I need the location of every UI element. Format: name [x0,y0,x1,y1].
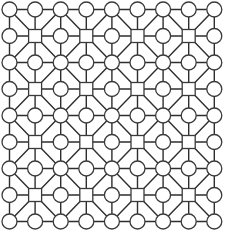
circle-node [53,135,68,150]
square-node [29,136,42,149]
circle-node [2,161,17,176]
square-node [80,30,93,43]
circle-node [130,2,145,17]
circle-node [28,214,43,229]
circle-node [28,55,43,70]
circle-node [130,55,145,70]
square-node [182,83,195,96]
circle-node [207,2,222,17]
circle-node [104,135,119,150]
square-node [131,30,144,43]
circle-node [104,29,119,44]
square-node [80,83,93,96]
circle-node [79,2,94,17]
circle-node [181,108,196,123]
circle-node [156,214,171,229]
circle-node [181,2,196,17]
circle-node [53,82,68,97]
circle-node [207,29,222,44]
circle-node [156,29,171,44]
circle-node [130,108,145,123]
circle-node [181,161,196,176]
circle-node [79,55,94,70]
circle-node [207,214,222,229]
circle-node [181,214,196,229]
square-node [131,136,144,149]
circle-node [156,55,171,70]
circle-node [181,55,196,70]
circle-node [2,2,17,17]
circle-node [104,188,119,203]
nodes-layer [2,2,222,229]
square-node [182,136,195,149]
circle-node [207,82,222,97]
circle-node [28,2,43,17]
circle-node [156,135,171,150]
circle-node [2,82,17,97]
circle-node [79,161,94,176]
circle-node [104,82,119,97]
square-node [182,30,195,43]
circle-node [53,55,68,70]
circle-node [104,161,119,176]
circle-node [2,135,17,150]
circle-node [207,108,222,123]
circle-node [53,2,68,17]
square-node [182,189,195,202]
circle-node [53,214,68,229]
circle-node [207,188,222,203]
circle-node [104,108,119,123]
grid-graph-diagram [0,0,226,234]
circle-node [207,55,222,70]
circle-node [156,2,171,17]
circle-node [156,82,171,97]
circle-node [53,188,68,203]
square-node [80,136,93,149]
square-node [80,189,93,202]
circle-node [2,55,17,70]
square-node [131,189,144,202]
circle-node [207,161,222,176]
circle-node [104,214,119,229]
circle-node [2,188,17,203]
circle-node [28,161,43,176]
circle-node [53,29,68,44]
square-node [29,189,42,202]
square-node [131,83,144,96]
circle-node [104,55,119,70]
square-node [29,83,42,96]
circle-node [28,108,43,123]
circle-node [130,161,145,176]
circle-node [53,161,68,176]
circle-node [207,135,222,150]
circle-node [2,214,17,229]
square-node [29,30,42,43]
circle-node [53,108,68,123]
circle-node [156,161,171,176]
circle-node [156,188,171,203]
circle-node [79,214,94,229]
circle-node [2,108,17,123]
circle-node [2,29,17,44]
circle-node [79,108,94,123]
circle-node [130,214,145,229]
circle-node [104,2,119,17]
circle-node [156,108,171,123]
